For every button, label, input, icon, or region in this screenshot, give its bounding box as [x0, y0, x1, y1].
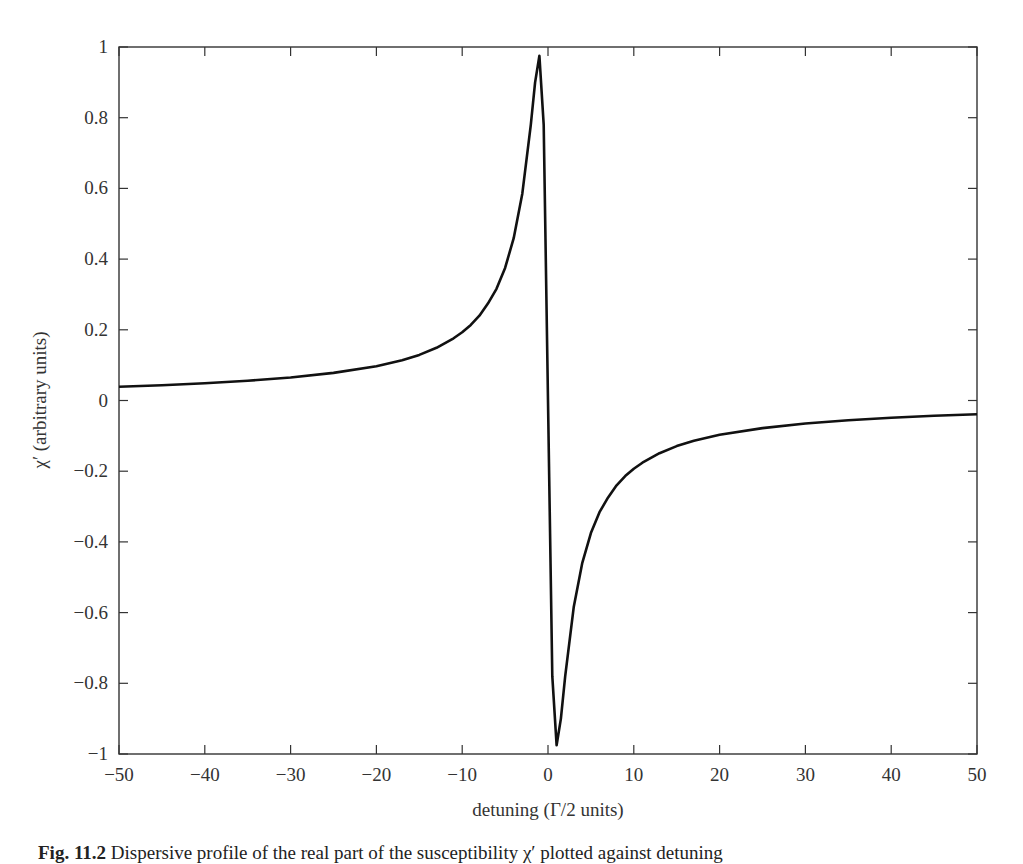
y-tick-label: −0.8 — [74, 672, 108, 693]
x-tick-label: 40 — [882, 764, 901, 785]
x-tick-label: 20 — [710, 764, 729, 785]
x-tick-label: 0 — [543, 764, 553, 785]
x-tick-label: 30 — [796, 764, 815, 785]
y-tick-label: −0.6 — [74, 602, 108, 623]
y-tick-label: 0.8 — [84, 107, 108, 128]
x-tick-label: −40 — [190, 764, 220, 785]
x-tick-label: −50 — [104, 764, 134, 785]
x-tick-label: −20 — [362, 764, 392, 785]
y-tick-label: 0.6 — [84, 177, 108, 198]
y-tick-label: −0.4 — [74, 531, 109, 552]
y-tick-label: 0.2 — [84, 319, 108, 340]
figure-number: Fig. 11.2 — [38, 842, 106, 863]
y-tick-labels: −1−0.8−0.6−0.4−0.200.20.40.60.81 — [74, 36, 109, 764]
x-tick-label: −30 — [276, 764, 306, 785]
y-tick-label: 1 — [99, 36, 109, 57]
x-tick-label: 50 — [968, 764, 987, 785]
x-tick-label: −10 — [447, 764, 477, 785]
x-tick-labels: −50−40−30−20−1001020304050 — [104, 764, 986, 785]
x-axis-label: detuning (Γ/2 units) — [472, 799, 623, 821]
y-tick-label: −0.2 — [74, 460, 108, 481]
y-tick-label: −1 — [88, 743, 108, 764]
y-axis-label: χ′ (arbitrary units) — [29, 331, 51, 469]
y-tick-label: 0.4 — [84, 248, 108, 269]
data-series-line — [119, 56, 977, 745]
y-tick-label: 0 — [99, 390, 109, 411]
caption-text: Dispersive profile of the real part of t… — [111, 842, 723, 863]
x-tick-label: 10 — [624, 764, 643, 785]
figure-caption: Fig. 11.2 Dispersive profile of the real… — [38, 842, 723, 864]
